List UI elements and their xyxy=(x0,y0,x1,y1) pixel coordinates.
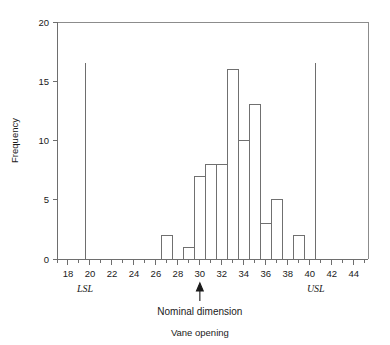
x-tick-label: 28 xyxy=(173,268,184,279)
histogram-bar xyxy=(260,223,271,259)
y-axis-ticks xyxy=(53,22,57,259)
histogram-bar xyxy=(293,235,304,259)
x-tick-label: 34 xyxy=(239,268,250,279)
x-tick-label: 26 xyxy=(151,268,162,279)
y-tick-label: 10 xyxy=(38,135,49,146)
histogram-bar xyxy=(227,69,238,259)
x-tick-label: 18 xyxy=(63,268,74,279)
y-tick-label: 15 xyxy=(38,76,49,87)
histogram-bars xyxy=(161,69,304,259)
x-tick-label: 30 xyxy=(195,268,206,279)
vane-opening-histogram: 05101520 1820222426283032343638404244 LS… xyxy=(0,0,390,345)
y-tick-label: 20 xyxy=(38,17,49,28)
histogram-bar xyxy=(183,247,194,259)
x-axis-minor-ticks xyxy=(57,259,365,263)
arrow-head xyxy=(196,283,203,291)
histogram-bar xyxy=(216,164,227,259)
histogram-bar xyxy=(271,200,282,259)
histogram-figure: 05101520 1820222426283032343638404244 LS… xyxy=(0,0,390,345)
x-tick-label: 22 xyxy=(107,268,118,279)
y-axis-title: Frequency xyxy=(9,118,20,163)
nominal-dimension-label: Nominal dimension xyxy=(157,306,242,317)
histogram-bar xyxy=(238,141,249,260)
y-tick-label: 5 xyxy=(44,194,49,205)
y-tick-label: 0 xyxy=(44,254,49,265)
x-tick-label: 24 xyxy=(129,268,140,279)
histogram-bar xyxy=(161,235,172,259)
x-tick-label: 32 xyxy=(217,268,228,279)
x-tick-label: 20 xyxy=(85,268,96,279)
usl-label: USL xyxy=(307,283,325,294)
x-tick-label: 42 xyxy=(326,268,337,279)
x-axis-title: Vane opening xyxy=(171,327,229,338)
y-axis-tick-labels: 05101520 xyxy=(38,17,49,265)
x-tick-label: 44 xyxy=(348,268,359,279)
histogram-bar xyxy=(194,176,205,259)
x-axis-tick-labels: 1820222426283032343638404244 xyxy=(63,268,359,279)
histogram-bar xyxy=(205,164,216,259)
x-tick-label: 36 xyxy=(261,268,272,279)
histogram-bar xyxy=(249,105,260,259)
x-tick-label: 38 xyxy=(282,268,293,279)
nominal-dimension-arrow-icon xyxy=(196,283,203,301)
x-tick-label: 40 xyxy=(304,268,315,279)
lsl-label: LSL xyxy=(76,283,94,294)
